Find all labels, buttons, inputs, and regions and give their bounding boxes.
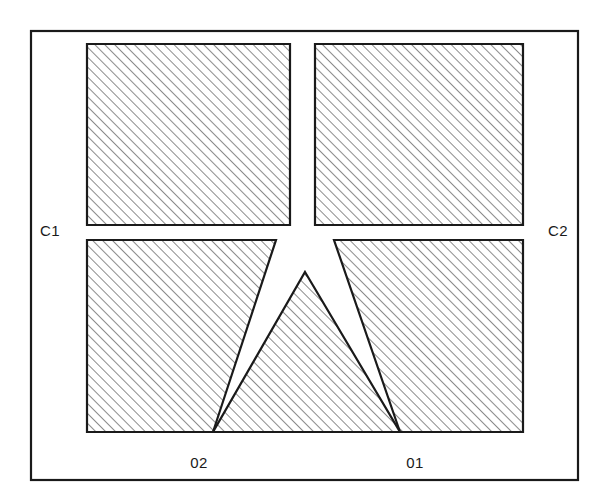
hatched-regions (87, 44, 523, 432)
label-01: 01 (406, 454, 423, 471)
diagram-canvas: C1 C2 02 01 (0, 0, 610, 499)
top-right-region (315, 44, 523, 225)
top-left-region (87, 44, 290, 225)
label-c1: C1 (40, 222, 60, 239)
label-c2: C2 (548, 222, 568, 239)
label-02: 02 (190, 454, 207, 471)
technical-diagram: C1 C2 02 01 (0, 0, 610, 499)
